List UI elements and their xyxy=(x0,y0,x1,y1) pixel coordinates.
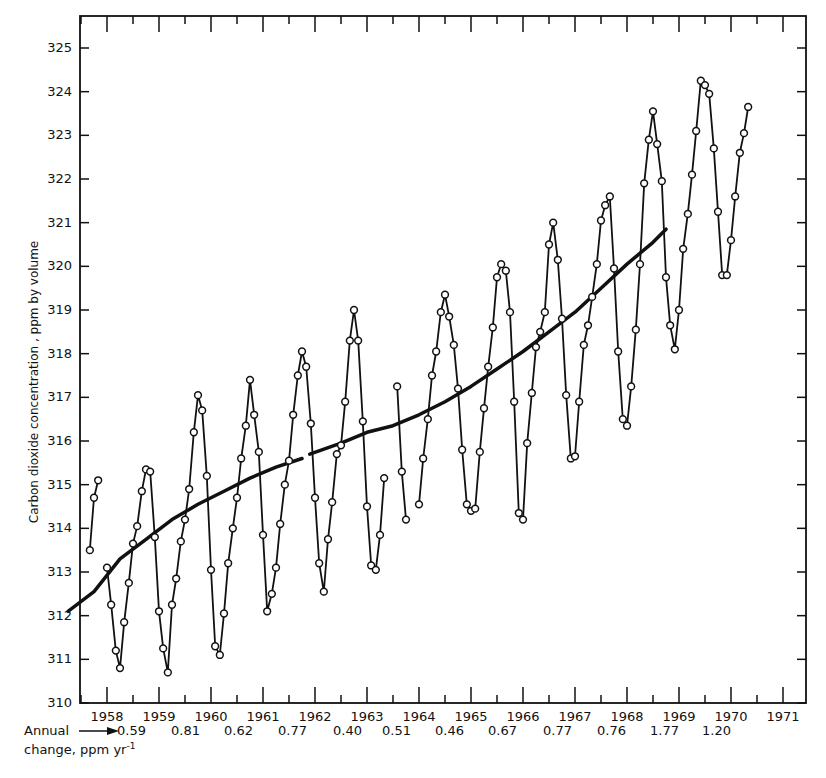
data-point xyxy=(160,645,167,652)
annual-change-value: 1.77 xyxy=(650,723,679,738)
data-point xyxy=(312,494,319,501)
data-point xyxy=(86,547,93,554)
data-point xyxy=(112,647,119,654)
data-point xyxy=(420,455,427,462)
data-point xyxy=(203,473,210,480)
data-point xyxy=(515,510,522,517)
x-tick-label: 1964 xyxy=(402,709,435,724)
y-tick-label: 311 xyxy=(47,651,72,666)
data-point xyxy=(108,601,115,608)
data-point xyxy=(663,274,670,281)
data-point xyxy=(498,261,505,268)
x-tick-label: 1960 xyxy=(194,709,227,724)
data-point xyxy=(437,309,444,316)
data-point xyxy=(377,531,384,538)
data-point xyxy=(260,531,267,538)
data-point xyxy=(156,608,163,615)
data-point xyxy=(576,398,583,405)
data-point xyxy=(294,372,301,379)
data-point xyxy=(450,342,457,349)
data-point xyxy=(238,455,245,462)
y-tick-label: 315 xyxy=(47,477,72,492)
data-point xyxy=(533,344,540,351)
data-point xyxy=(507,309,514,316)
data-point xyxy=(169,601,176,608)
data-point xyxy=(736,149,743,156)
annual-change-value: 0.77 xyxy=(278,723,307,738)
data-point xyxy=(325,536,332,543)
annual-change-value: 0.62 xyxy=(224,723,253,738)
data-point xyxy=(104,564,111,571)
arrow-right-icon xyxy=(79,724,119,739)
data-point xyxy=(442,291,449,298)
data-point xyxy=(559,315,566,322)
data-point xyxy=(537,328,544,335)
x-tick-label: 1962 xyxy=(298,709,331,724)
data-point xyxy=(234,494,241,501)
data-point xyxy=(130,540,137,547)
annual-change-value: 0.46 xyxy=(435,723,464,738)
data-point xyxy=(455,385,462,392)
data-point xyxy=(182,516,189,523)
data-point xyxy=(511,398,518,405)
data-point xyxy=(723,272,730,279)
data-point xyxy=(476,449,483,456)
y-tick-label: 313 xyxy=(47,564,72,579)
data-point xyxy=(429,372,436,379)
data-point xyxy=(195,392,202,399)
data-point xyxy=(589,294,596,301)
data-point xyxy=(320,588,327,595)
data-point xyxy=(355,337,362,344)
x-tick-label: 1970 xyxy=(714,709,747,724)
data-point xyxy=(138,488,145,495)
data-point xyxy=(650,108,657,115)
data-point xyxy=(264,608,271,615)
data-point xyxy=(303,363,310,370)
data-point xyxy=(463,501,470,508)
data-point xyxy=(689,171,696,178)
x-tick-label: 1965 xyxy=(454,709,487,724)
data-point xyxy=(446,313,453,320)
data-point xyxy=(520,516,527,523)
data-point xyxy=(316,560,323,567)
y-tick-label: 322 xyxy=(47,171,72,186)
data-point xyxy=(381,475,388,482)
x-tick-label: 1971 xyxy=(766,709,799,724)
data-point xyxy=(459,446,466,453)
x-tick-label: 1969 xyxy=(662,709,695,724)
annual-change-value: 1.20 xyxy=(702,723,731,738)
data-point xyxy=(121,619,128,626)
annual-change-label-line1: Annual xyxy=(24,723,69,738)
annual-change-label: Annual xyxy=(24,723,119,739)
data-point xyxy=(524,440,531,447)
data-point xyxy=(286,457,293,464)
x-tick-label: 1959 xyxy=(142,709,175,724)
data-point xyxy=(177,538,184,545)
y-tick-label: 318 xyxy=(47,346,72,361)
data-point xyxy=(403,516,410,523)
data-point xyxy=(221,610,228,617)
data-point xyxy=(281,481,288,488)
data-point xyxy=(212,643,219,650)
data-point xyxy=(702,82,709,89)
annual-change-value: 0.76 xyxy=(597,723,626,738)
data-point xyxy=(95,477,102,484)
x-tick-label: 1963 xyxy=(350,709,383,724)
data-point xyxy=(706,90,713,97)
data-point xyxy=(359,418,366,425)
data-point xyxy=(541,309,548,316)
y-tick-label: 316 xyxy=(47,433,72,448)
x-tick-label: 1966 xyxy=(506,709,539,724)
data-point xyxy=(372,566,379,573)
data-point xyxy=(225,560,232,567)
data-point xyxy=(615,348,622,355)
data-point xyxy=(580,342,587,349)
data-point xyxy=(554,256,561,263)
data-point xyxy=(199,407,206,414)
data-point xyxy=(433,348,440,355)
data-point xyxy=(676,307,683,314)
data-point xyxy=(208,566,215,573)
data-point xyxy=(190,429,197,436)
y-tick-label: 324 xyxy=(47,84,72,99)
data-point xyxy=(619,416,626,423)
